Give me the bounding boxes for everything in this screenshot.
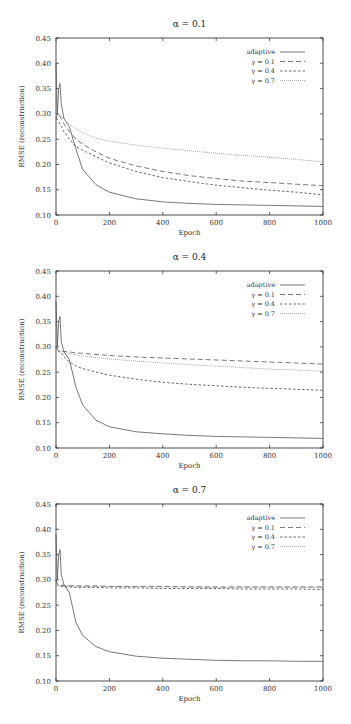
x-axis-label: Epoch	[178, 462, 201, 470]
chart-panel-1: α = 0.10.100.150.200.250.300.350.400.450…	[18, 19, 332, 237]
y-tick-label: 0.25	[35, 369, 51, 377]
x-axis-label: Epoch	[178, 695, 201, 703]
series-line	[56, 347, 323, 390]
x-tick-label: 600	[210, 685, 223, 693]
series-line	[56, 534, 323, 661]
y-tick-label: 0.10	[35, 678, 51, 686]
legend-label: γ = 0.4	[251, 300, 275, 308]
y-tick-label: 0.40	[35, 293, 51, 301]
series-line	[56, 63, 323, 206]
plot-frame	[56, 504, 323, 681]
legend-label: γ = 0.4	[251, 533, 275, 541]
x-tick-label: 400	[156, 452, 169, 460]
x-tick-label: 600	[210, 219, 223, 227]
y-tick-label: 0.35	[35, 85, 51, 93]
legend: adaptiveγ = 0.1γ = 0.4γ = 0.7	[247, 514, 305, 551]
x-tick-label: 400	[156, 219, 169, 227]
y-tick-label: 0.15	[35, 186, 51, 194]
legend-label: γ = 0.1	[251, 58, 275, 66]
y-tick-label: 0.35	[35, 318, 51, 326]
plot-frame	[56, 38, 323, 215]
x-tick-label: 200	[103, 685, 116, 693]
y-tick-label: 0.10	[35, 445, 51, 453]
series-line	[56, 347, 323, 364]
legend-label: adaptive	[247, 48, 275, 56]
figure: α = 0.10.100.150.200.250.300.350.400.450…	[0, 0, 351, 724]
legend-label: γ = 0.1	[251, 524, 275, 532]
y-tick-label: 0.40	[35, 526, 51, 534]
x-tick-label: 0	[54, 685, 58, 693]
y-tick-label: 0.20	[35, 627, 51, 635]
x-tick-label: 400	[156, 685, 169, 693]
chart-title: α = 0.7	[173, 485, 207, 495]
legend-label: γ = 0.7	[251, 77, 275, 85]
chart-title: α = 0.1	[173, 19, 207, 29]
x-tick-label: 1000	[314, 219, 332, 227]
y-tick-label: 0.40	[35, 60, 51, 68]
x-tick-label: 200	[103, 452, 116, 460]
legend-label: adaptive	[247, 514, 275, 522]
x-axis-label: Epoch	[178, 229, 201, 237]
legend: adaptiveγ = 0.1γ = 0.4γ = 0.7	[247, 48, 305, 84]
y-tick-label: 0.45	[35, 268, 51, 276]
x-tick-label: 1000	[314, 452, 332, 460]
legend-label: γ = 0.7	[251, 310, 275, 318]
y-tick-label: 0.35	[35, 551, 51, 559]
y-tick-label: 0.15	[35, 652, 51, 660]
y-axis-label: RMSE (reconstruction)	[18, 85, 26, 167]
plot-frame	[56, 271, 323, 448]
y-axis-label: RMSE (reconstruction)	[18, 551, 26, 633]
y-tick-label: 0.20	[35, 394, 51, 402]
chart-panel-2: α = 0.40.100.150.200.250.300.350.400.450…	[18, 252, 332, 470]
x-tick-label: 800	[263, 685, 276, 693]
series-line	[56, 114, 323, 162]
y-tick-label: 0.45	[35, 501, 51, 509]
x-tick-label: 0	[54, 452, 58, 460]
chart-panel-3: α = 0.70.100.150.200.250.300.350.400.450…	[18, 485, 332, 703]
x-tick-label: 200	[103, 219, 116, 227]
y-tick-label: 0.10	[35, 212, 51, 220]
x-tick-label: 1000	[314, 685, 332, 693]
chart-title: α = 0.4	[173, 252, 207, 262]
x-tick-label: 800	[263, 219, 276, 227]
x-tick-label: 0	[54, 219, 58, 227]
legend: adaptiveγ = 0.1γ = 0.4γ = 0.7	[247, 281, 305, 318]
y-tick-label: 0.25	[35, 136, 51, 144]
series-line	[56, 580, 323, 590]
y-tick-label: 0.25	[35, 602, 51, 610]
legend-label: adaptive	[247, 281, 275, 289]
series-line	[56, 580, 323, 587]
y-tick-label: 0.30	[35, 343, 51, 351]
y-tick-label: 0.15	[35, 419, 51, 427]
y-tick-label: 0.45	[35, 35, 51, 43]
legend-label: γ = 0.1	[251, 291, 275, 299]
y-tick-label: 0.30	[35, 576, 51, 584]
y-tick-label: 0.20	[35, 161, 51, 169]
legend-label: γ = 0.4	[251, 67, 275, 75]
y-axis-label: RMSE (reconstruction)	[18, 318, 26, 400]
x-tick-label: 800	[263, 452, 276, 460]
legend-label: γ = 0.7	[251, 543, 275, 551]
series-line	[56, 347, 323, 371]
x-tick-label: 600	[210, 452, 223, 460]
y-tick-label: 0.30	[35, 110, 51, 118]
series-line	[56, 114, 323, 186]
